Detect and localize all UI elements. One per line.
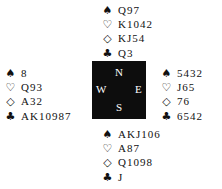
- club-icon: ♣: [160, 110, 174, 124]
- compass-east: E: [135, 83, 142, 95]
- west-diamonds: ◇A32: [4, 94, 71, 108]
- cards: 6542: [177, 110, 203, 122]
- south-spades: ♠AKJ106: [101, 127, 161, 141]
- east-diamonds: ◇76: [160, 94, 203, 108]
- heart-icon: ♡: [101, 18, 115, 32]
- club-icon: ♣: [4, 110, 18, 124]
- cards: Q93: [21, 81, 43, 93]
- west-hand: ♠8 ♡Q93 ◇A32 ♣AK10987: [4, 66, 71, 123]
- cards: AK10987: [21, 110, 71, 122]
- compass-table: N W E S: [92, 61, 146, 119]
- spade-icon: ♠: [101, 128, 115, 142]
- east-clubs: ♣6542: [160, 109, 203, 123]
- compass-north: N: [115, 66, 123, 78]
- cards: AKJ106: [118, 128, 161, 140]
- cards: A87: [118, 142, 140, 154]
- west-clubs: ♣AK10987: [4, 109, 71, 123]
- heart-icon: ♡: [101, 142, 115, 156]
- south-hearts: ♡A87: [101, 141, 161, 155]
- diamond-icon: ◇: [101, 156, 115, 170]
- spade-icon: ♠: [160, 67, 174, 81]
- club-icon: ♣: [101, 171, 115, 185]
- north-clubs: ♣Q3: [101, 46, 153, 60]
- east-hearts: ♡J65: [160, 80, 203, 94]
- cards: A32: [21, 95, 43, 107]
- cards: 76: [177, 95, 190, 107]
- east-spades: ♠5432: [160, 66, 203, 80]
- cards: J: [118, 171, 123, 183]
- cards: Q97: [118, 4, 140, 16]
- diamond-icon: ◇: [4, 95, 18, 109]
- cards: Q1098: [118, 156, 153, 168]
- north-hand: ♠Q97 ♡K1042 ◇KJ54 ♣Q3: [101, 3, 153, 60]
- south-clubs: ♣J: [101, 170, 161, 184]
- cards: 8: [21, 67, 28, 79]
- north-diamonds: ◇KJ54: [101, 31, 153, 45]
- cards: 5432: [177, 67, 203, 79]
- east-hand: ♠5432 ♡J65 ◇76 ♣6542: [160, 66, 203, 123]
- heart-icon: ♡: [160, 81, 174, 95]
- compass-west: W: [96, 83, 106, 95]
- heart-icon: ♡: [4, 81, 18, 95]
- cards: J65: [177, 81, 195, 93]
- north-spades: ♠Q97: [101, 3, 153, 17]
- south-hand: ♠AKJ106 ♡A87 ◇Q1098 ♣J: [101, 127, 161, 184]
- south-diamonds: ◇Q1098: [101, 155, 161, 169]
- diamond-icon: ◇: [101, 32, 115, 46]
- spade-icon: ♠: [4, 67, 18, 81]
- compass-south: S: [116, 101, 122, 113]
- west-spades: ♠8: [4, 66, 71, 80]
- north-hearts: ♡K1042: [101, 17, 153, 31]
- diamond-icon: ◇: [160, 95, 174, 109]
- club-icon: ♣: [101, 47, 115, 61]
- cards: Q3: [118, 47, 133, 59]
- cards: K1042: [118, 18, 153, 30]
- west-hearts: ♡Q93: [4, 80, 71, 94]
- cards: KJ54: [118, 32, 145, 44]
- spade-icon: ♠: [101, 4, 115, 18]
